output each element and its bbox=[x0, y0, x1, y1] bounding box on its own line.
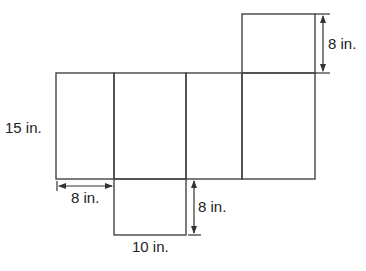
label-bottom-height: 8 in. bbox=[198, 198, 226, 215]
face-top bbox=[242, 14, 315, 73]
face-bottom bbox=[114, 179, 186, 235]
label-left-height: 15 in. bbox=[5, 119, 42, 136]
face-front bbox=[114, 73, 186, 179]
face-back bbox=[242, 73, 315, 179]
face-left bbox=[56, 73, 114, 179]
face-right bbox=[186, 73, 242, 179]
net-diagram: 8 in. 15 in. 8 in. 8 in. 10 in. bbox=[0, 0, 366, 271]
label-left-width: 8 in. bbox=[71, 189, 99, 206]
label-bottom-width: 10 in. bbox=[132, 238, 169, 255]
label-top-height: 8 in. bbox=[328, 35, 356, 52]
